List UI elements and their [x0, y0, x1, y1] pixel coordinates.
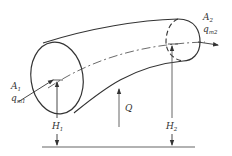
inlet-area-label: A1	[11, 82, 21, 93]
outlet-flow-arrow	[198, 42, 218, 45]
outlet-cross-section-hidden	[166, 19, 183, 61]
pipe-top-edge	[43, 19, 178, 43]
outlet-flow-label: qm2	[203, 25, 217, 36]
h1-symbol: H	[52, 121, 60, 131]
pipe-centerline	[48, 42, 205, 88]
h2-symbol: H	[166, 121, 174, 131]
outlet-area-subscript: 2	[210, 17, 214, 23]
h2-label: H2	[166, 122, 177, 133]
pipe-control-volume-diagram	[0, 0, 232, 156]
heat-symbol: Q	[125, 103, 132, 113]
outlet-area-label: A2	[203, 13, 213, 24]
h2-subscript: 2	[174, 126, 178, 132]
inlet-flow-subscript: m1	[17, 98, 26, 104]
h1-label: H1	[52, 122, 63, 133]
outlet-cross-section-front	[178, 19, 200, 61]
heat-label: Q	[125, 104, 132, 113]
h1-subscript: 1	[60, 126, 64, 132]
inlet-area-subscript: 1	[18, 86, 22, 92]
outlet-flow-subscript: m2	[209, 29, 218, 35]
inlet-flow-label: qm1	[11, 94, 25, 105]
